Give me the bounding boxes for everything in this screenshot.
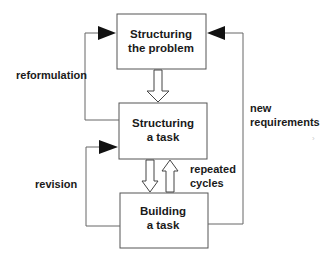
label-new: new [250,102,272,114]
label-cycles: cycles [190,177,224,189]
scan-artifact-mark: › [312,134,315,143]
label-reformulation: reformulation [16,69,87,81]
hollow-arrow-down-icon [142,160,158,192]
node-building-task-line2: a task [147,219,180,231]
process-diagram: Structuring the problem Structuring a ta… [0,0,327,263]
label-repeated: repeated [190,163,236,175]
label-revision: revision [35,178,77,190]
node-structuring-problem-line2: the problem [128,42,194,54]
node-building-task-line1: Building [140,205,186,217]
label-requirements: requirements [250,116,320,128]
arrowhead-right-icon [99,140,118,154]
node-structuring-problem-line1: Structuring [130,28,192,40]
node-structuring-task-line1: Structuring [132,117,194,129]
hollow-arrow-down-icon [147,70,169,102]
arrowhead-right-icon [98,26,116,40]
reformulation-loop-line [85,33,119,120]
revision-loop-line [86,147,120,226]
new-requirements-loop-line [208,33,243,224]
node-structuring-task-line2: a task [147,131,180,143]
hollow-arrow-up-icon [162,160,178,192]
arrowhead-left-icon [207,26,225,40]
